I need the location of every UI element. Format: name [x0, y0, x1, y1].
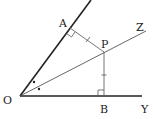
angle-dot-lower — [38, 88, 40, 90]
label-o: O — [3, 94, 12, 107]
label-b: B — [100, 103, 108, 116]
label-a: A — [58, 17, 68, 30]
right-angle-mark-a — [67, 32, 76, 37]
segment-pa — [70, 28, 104, 52]
label-y: Y — [140, 103, 149, 116]
right-angle-mark-b — [98, 90, 104, 96]
label-p: P — [101, 38, 109, 51]
label-z: Z — [136, 21, 144, 34]
angle-dot-upper — [33, 81, 35, 83]
geometry-diagram: A P Z O B Y — [0, 0, 153, 119]
bisector-oz — [20, 31, 146, 96]
ray-ox — [20, 0, 91, 96]
